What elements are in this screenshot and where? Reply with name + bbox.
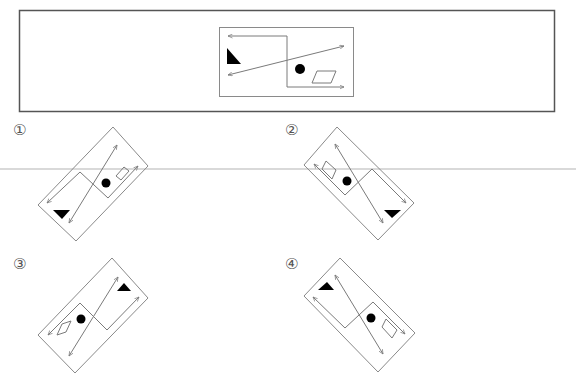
triangle-shape	[117, 283, 131, 291]
triangle-shape	[227, 48, 241, 64]
diagram-stage: ① ② ③ ④	[0, 0, 576, 390]
parallelogram-shape	[312, 71, 336, 83]
l-shaped-arrow-line	[313, 297, 405, 334]
triangle-shape	[384, 210, 401, 218]
diagonal-arrow-line	[335, 144, 383, 223]
triangle-shape	[318, 282, 334, 290]
diagram-canvas	[0, 0, 576, 390]
l-shaped-arrow-line	[228, 36, 344, 87]
circle-shape	[295, 64, 305, 74]
option-2-figure[interactable]	[304, 127, 414, 240]
original-figure	[220, 28, 354, 97]
option-1-figure[interactable]	[38, 127, 148, 241]
l-shaped-arrow-line	[314, 164, 406, 203]
circle-shape	[367, 314, 376, 323]
diagonal-arrow-line	[335, 275, 383, 354]
option-4-figure[interactable]	[304, 258, 415, 372]
circle-shape	[102, 179, 111, 188]
option-3-figure[interactable]	[38, 258, 148, 373]
parallelogram-shape	[382, 319, 397, 338]
circle-shape	[77, 315, 86, 324]
parallelogram-shape	[57, 321, 71, 335]
triangle-shape	[53, 210, 70, 219]
circle-shape	[343, 177, 352, 186]
diagonal-arrow-line	[69, 277, 118, 356]
parallelogram-shape	[322, 161, 336, 179]
